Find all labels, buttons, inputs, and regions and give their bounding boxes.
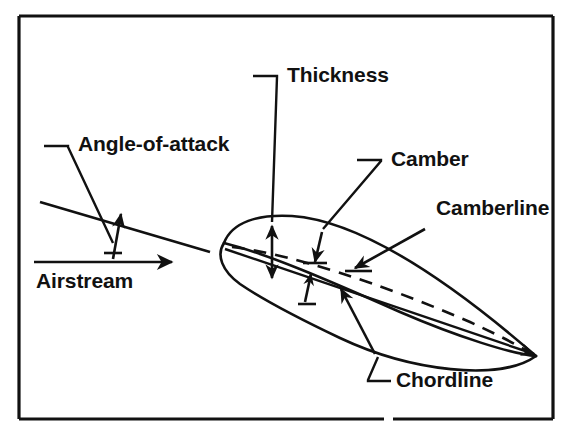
camber-dimension	[303, 160, 381, 263]
thickness-leader-line	[253, 76, 277, 222]
airfoil-section	[221, 216, 536, 371]
angle-of-attack-construction	[34, 146, 210, 262]
camber-leader-line	[323, 160, 381, 229]
airfoil-diagram: Angle-of-attack Airstream Thickness Camb…	[0, 0, 571, 446]
figure-root: Angle-of-attack Airstream Thickness Camb…	[0, 0, 571, 446]
diagram-labels: Angle-of-attack Airstream Thickness Camb…	[36, 63, 549, 391]
camberline-pointer	[345, 229, 425, 271]
camberline-pointer-arrow	[355, 229, 425, 268]
camber-arrow	[315, 232, 322, 262]
airfoil-lower-surface	[221, 243, 536, 370]
label-thickness: Thickness	[287, 63, 389, 86]
chordline-leader-line	[368, 357, 391, 381]
inclined-chord-reference-line	[40, 202, 210, 252]
thickness-dimension	[253, 76, 277, 278]
label-angle-of-attack: Angle-of-attack	[78, 132, 230, 155]
label-chordline: Chordline	[396, 368, 493, 391]
label-airstream: Airstream	[36, 269, 133, 292]
angle-of-attack-leader-line	[44, 146, 113, 243]
label-camber: Camber	[391, 147, 469, 170]
label-camberline: Camberline	[436, 196, 549, 219]
